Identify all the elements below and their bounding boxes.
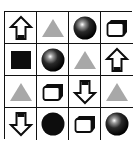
grid-cell-r3-c3[interactable] — [69, 76, 101, 108]
arrow-up-icon — [104, 47, 130, 73]
circle-icon — [40, 111, 66, 137]
puzzle-grid — [4, 11, 132, 139]
grid-cell-r3-c2[interactable] — [37, 76, 69, 108]
grid-cell-r4-c1[interactable] — [5, 108, 37, 140]
triangle-icon — [72, 47, 98, 73]
box-icon — [104, 15, 130, 41]
grid-cell-r2-c1[interactable] — [5, 44, 37, 76]
arrow-down-icon — [72, 79, 98, 105]
box-icon — [40, 79, 66, 105]
grid-cell-r3-c4[interactable] — [101, 76, 133, 108]
grid-cell-r1-c4[interactable] — [101, 12, 133, 44]
grid-cell-r1-c2[interactable] — [37, 12, 69, 44]
triangle-icon — [40, 15, 66, 41]
box-icon — [72, 111, 98, 137]
triangle-icon — [8, 79, 34, 105]
grid-cell-r1-c1[interactable] — [5, 12, 37, 44]
sphere-icon — [104, 111, 130, 137]
grid-cell-r2-c2[interactable] — [37, 44, 69, 76]
arrow-down-icon — [8, 111, 34, 137]
triangle-icon — [104, 79, 130, 105]
grid-cell-r4-c3[interactable] — [69, 108, 101, 140]
square-icon — [8, 47, 34, 73]
arrow-up-icon — [8, 15, 34, 41]
grid-cell-r4-c4[interactable] — [101, 108, 133, 140]
sphere-icon — [40, 47, 66, 73]
grid-cell-r4-c2[interactable] — [37, 108, 69, 140]
grid-cell-r2-c3[interactable] — [69, 44, 101, 76]
grid-cell-r2-c4[interactable] — [101, 44, 133, 76]
grid-cell-r1-c3[interactable] — [69, 12, 101, 44]
grid-cell-r3-c1[interactable] — [5, 76, 37, 108]
sphere-icon — [72, 15, 98, 41]
